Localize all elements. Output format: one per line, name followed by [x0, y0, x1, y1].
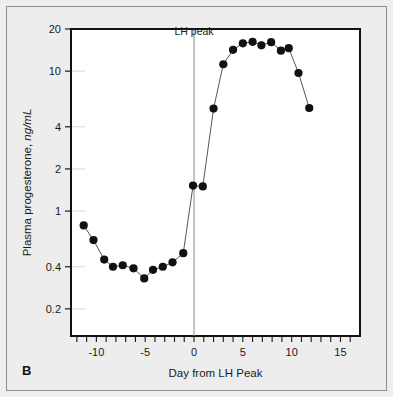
x-tick-label--10: -10	[88, 346, 104, 358]
x-tick-label-5: 5	[240, 346, 246, 358]
y-tick-label-1: 1	[55, 205, 61, 217]
x-tick-label-15: 15	[334, 346, 346, 358]
x-tick-label-10: 10	[286, 346, 298, 358]
data-point	[285, 44, 293, 52]
data-point	[294, 69, 302, 77]
data-point	[89, 236, 97, 244]
y-axis-tick-labels: 20104210.40.2	[46, 23, 61, 315]
svg-text:Plasma progesterone, ng/mL: Plasma progesterone, ng/mL	[21, 109, 33, 257]
data-point	[219, 60, 227, 68]
data-point	[257, 41, 265, 49]
data-point	[168, 258, 176, 266]
data-point	[249, 38, 257, 46]
data-point	[239, 39, 247, 47]
y-tick-label-0.4: 0.4	[46, 261, 61, 273]
x-tick-label--5: -5	[140, 346, 150, 358]
data-point	[129, 264, 137, 272]
y-tick-label-10: 10	[49, 65, 61, 77]
x-tick-label-0: 0	[191, 346, 197, 358]
panel-letter: B	[22, 363, 31, 378]
lh-peak-label: LH peak	[174, 25, 214, 37]
plot-area-background	[71, 29, 360, 336]
y-tick-label-20: 20	[49, 23, 61, 35]
data-point	[100, 255, 108, 263]
y-axis-title: Plasma progesterone, ng/mL	[21, 109, 33, 257]
data-point	[229, 46, 237, 54]
x-axis-title: Day from LH Peak	[169, 367, 263, 379]
data-point	[277, 47, 285, 55]
y-axis-title-units: ng/mL	[21, 109, 33, 141]
progesterone-log-line-chart: LH peak 20104210.40.2 -10-5051015 Day fr…	[0, 0, 393, 397]
data-point	[209, 104, 217, 112]
data-point	[159, 263, 167, 271]
data-point	[149, 266, 157, 274]
data-point	[119, 261, 127, 269]
y-tick-label-2: 2	[55, 163, 61, 175]
data-point	[199, 182, 207, 190]
data-point	[305, 104, 313, 112]
data-point	[189, 182, 197, 190]
y-tick-label-0.2: 0.2	[46, 303, 61, 315]
x-axis-tick-labels: -10-5051015	[88, 346, 346, 358]
y-tick-label-4: 4	[55, 121, 61, 133]
data-point	[267, 38, 275, 46]
grid-layer	[71, 29, 85, 309]
data-point	[80, 221, 88, 229]
data-point	[109, 263, 117, 271]
figure-panel: LH peak 20104210.40.2 -10-5051015 Day fr…	[0, 0, 393, 397]
data-point	[179, 249, 187, 257]
data-point	[140, 274, 148, 282]
y-axis-title-main: Plasma progesterone,	[21, 141, 33, 257]
